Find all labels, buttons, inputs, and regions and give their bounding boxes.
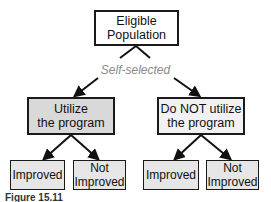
node-text: the program [37,116,104,130]
node-text: Improved [74,175,124,189]
node-text: Improved [207,175,257,189]
self-selected-label: Self-selected [0,63,271,77]
node-text: Not [90,161,109,175]
node-text: Do NOT utilize [160,102,241,116]
node-text: Not [223,161,242,175]
leaf-improved-right: Improved [143,160,199,190]
node-text: Improved [12,168,62,182]
eligible-population-node: EligiblePopulation [94,10,179,46]
utilize-program-node: Utilizethe program [27,97,115,135]
not-utilize-program-node: Do NOT utilizethe program [157,97,245,135]
node-text: the program [167,116,234,130]
node-text: Eligible [116,14,156,28]
node-text: Utilize [54,102,88,116]
node-text: Improved [146,168,196,182]
node-text: Population [107,28,166,42]
leaf-improved-left: Improved [10,160,65,190]
figure-caption: Figure 15.11 [5,192,63,202]
leaf-not-improved-right: NotImproved [206,160,259,190]
leaf-not-improved-left: NotImproved [73,160,126,190]
